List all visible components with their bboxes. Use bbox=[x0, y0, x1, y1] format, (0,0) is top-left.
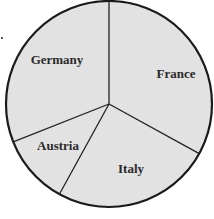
slice-label-austria: Austria bbox=[37, 138, 79, 153]
pie-chart: FranceItalyAustriaGermany bbox=[0, 0, 214, 219]
slice-label-france: France bbox=[157, 66, 196, 81]
slice-label-germany: Germany bbox=[31, 52, 84, 67]
slice-label-italy: Italy bbox=[118, 161, 145, 176]
